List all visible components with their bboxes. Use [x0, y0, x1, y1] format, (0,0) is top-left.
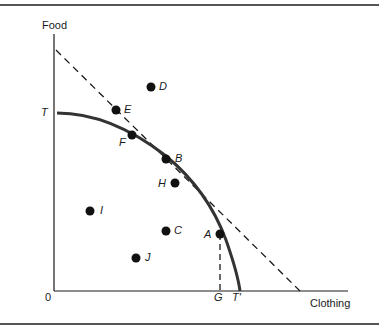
point-c — [162, 227, 171, 236]
point-b-label: B — [175, 153, 182, 164]
point-j — [132, 254, 141, 263]
point-c-label: C — [174, 225, 182, 236]
ppf-diagram — [0, 0, 379, 335]
point-j-label: J — [145, 252, 151, 263]
point-a — [216, 230, 225, 239]
point-h-label: H — [158, 178, 166, 189]
point-f-label: F — [119, 137, 126, 148]
point-a-label: A — [204, 229, 211, 240]
point-d — [147, 83, 156, 92]
ppf-curve — [57, 113, 240, 291]
origin-label: 0 — [45, 292, 51, 303]
price-line-dashed — [56, 50, 300, 291]
x-axis-label: Clothing — [310, 298, 350, 309]
point-h — [171, 179, 180, 188]
point-e-label: E — [124, 104, 131, 115]
point-i — [86, 207, 95, 216]
y-axis-label: Food — [42, 20, 67, 31]
point-f — [128, 131, 137, 140]
point-b — [162, 155, 171, 164]
point-d-label: D — [159, 81, 167, 92]
ppf-bottom-label: T' — [232, 292, 241, 303]
point-e — [112, 106, 121, 115]
point-i-label: I — [100, 205, 103, 216]
ppf-top-label: T — [41, 107, 48, 118]
g-label: G — [214, 292, 223, 303]
